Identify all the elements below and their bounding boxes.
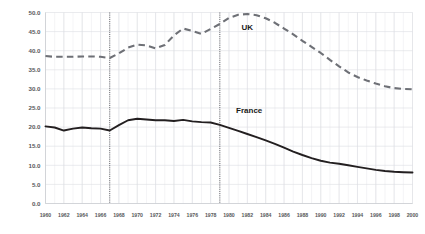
y-tick-45.0: 45.0 <box>28 28 41 35</box>
x-tick-1980: 1980 <box>223 212 235 218</box>
y-tick-30.0: 30.0 <box>28 85 41 92</box>
x-tick-1976: 1976 <box>187 212 199 218</box>
x-tick-1986: 1986 <box>278 212 290 218</box>
x-tick-1974: 1974 <box>168 212 180 218</box>
x-tick-1996: 1996 <box>370 212 382 218</box>
x-tick-1998: 1998 <box>388 212 400 218</box>
y-tick-5.0: 5.0 <box>32 181 41 188</box>
y-axis-tick-labels: 50.045.040.035.030.025.020.015.010.05.00… <box>28 9 41 207</box>
x-tick-1982: 1982 <box>242 212 254 218</box>
y-tick-35.0: 35.0 <box>28 66 41 73</box>
y-tick-0.0: 0.0 <box>32 200 41 207</box>
y-tick-40.0: 40.0 <box>28 47 41 54</box>
line-chart: 50.045.040.035.030.025.020.015.010.05.00… <box>0 0 425 234</box>
y-tick-50.0: 50.0 <box>28 9 41 16</box>
x-axis-tick-labels: 1960196219641966196819701972197419761978… <box>40 212 419 218</box>
x-tick-1994: 1994 <box>352 212 364 218</box>
y-tick-20.0: 20.0 <box>28 123 41 130</box>
x-tick-1962: 1962 <box>58 212 70 218</box>
y-tick-10.0: 10.0 <box>28 162 41 169</box>
x-tick-1968: 1968 <box>113 212 125 218</box>
x-tick-1966: 1966 <box>95 212 107 218</box>
x-tick-1990: 1990 <box>315 212 327 218</box>
x-tick-1978: 1978 <box>205 212 217 218</box>
x-tick-1970: 1970 <box>131 212 143 218</box>
y-tick-15.0: 15.0 <box>28 142 41 149</box>
x-tick-1964: 1964 <box>76 212 88 218</box>
chart-canvas: 50.045.040.035.030.025.020.015.010.05.00… <box>0 0 425 234</box>
x-tick-1972: 1972 <box>150 212 162 218</box>
x-tick-1992: 1992 <box>333 212 345 218</box>
x-tick-1988: 1988 <box>297 212 309 218</box>
x-tick-2000: 2000 <box>407 212 419 218</box>
series-label-france: France <box>236 106 263 115</box>
gridlines-vertical-major <box>46 13 413 204</box>
x-tick-1984: 1984 <box>260 212 272 218</box>
x-tick-1960: 1960 <box>40 212 52 218</box>
series-annotations: UKFrance <box>236 23 263 115</box>
series-label-uk: UK <box>242 23 254 32</box>
y-tick-25.0: 25.0 <box>28 104 41 111</box>
